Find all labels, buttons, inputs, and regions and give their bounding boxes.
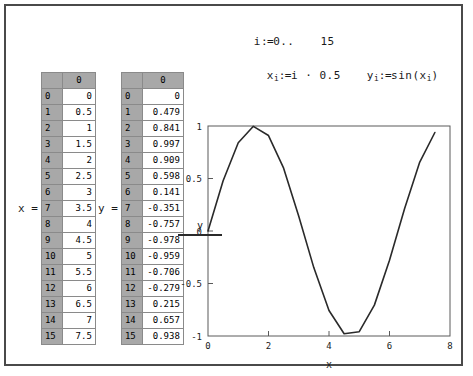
matrix-row: 42 — [41, 153, 95, 169]
x-tick-label: 0 — [205, 341, 210, 351]
matrix-row-index: 6 — [121, 185, 142, 201]
matrix-row-index: 7 — [41, 201, 62, 217]
matrix-value-cell[interactable]: 7.5 — [62, 329, 95, 345]
matrix-row-index: 11 — [121, 265, 142, 281]
matrix-x-table[interactable]: 00010.52131.54252.56373.58494.5105115.51… — [41, 72, 96, 345]
matrix-row: 31.5 — [41, 137, 95, 153]
matrix-corner-cell — [41, 73, 62, 89]
matrix-value-cell[interactable]: 2 — [62, 153, 95, 169]
matrix-value-cell[interactable]: 5.5 — [62, 265, 95, 281]
plot-region[interactable]: y 02468 -1-0.500.51 x — [166, 118, 456, 368]
worksheet-page: i:=0..15 xi:=i · 0.5yi:=sin(xi) x = 0001… — [0, 0, 473, 376]
matrix-x-label: x = — [18, 202, 38, 215]
plot-frame — [208, 126, 450, 336]
matrix-column-header: 0 — [142, 73, 183, 89]
matrix-row-index: 13 — [41, 297, 62, 313]
matrix-header-row: 0 — [121, 73, 183, 89]
matrix-row: 63 — [41, 185, 95, 201]
matrix-row: 84 — [41, 217, 95, 233]
matrix-row-index: 14 — [121, 313, 142, 329]
matrix-row-index: 9 — [41, 233, 62, 249]
matrix-row-index: 12 — [121, 281, 142, 297]
matrix-value-cell[interactable]: 1.5 — [62, 137, 95, 153]
matrix-corner-cell — [121, 73, 142, 89]
matrix-row-index: 1 — [121, 105, 142, 121]
matrix-value-cell[interactable]: 3 — [62, 185, 95, 201]
matrix-row-index: 15 — [121, 329, 142, 345]
matrix-value-cell[interactable]: 4.5 — [62, 233, 95, 249]
matrix-row: 136.5 — [41, 297, 95, 313]
x-tick-label: 4 — [326, 341, 331, 351]
range-end: 15 — [321, 35, 335, 48]
matrix-row: 126 — [41, 281, 95, 297]
x-tick-label: 8 — [447, 341, 452, 351]
formula-y-rhs-suffix: ) — [431, 69, 438, 82]
x-tick-label: 6 — [387, 341, 392, 351]
matrix-row-index: 12 — [41, 281, 62, 297]
matrix-row-index: 5 — [121, 169, 142, 185]
range-variable: i — [254, 35, 261, 48]
matrix-row: 00 — [41, 89, 95, 105]
y-tick-label: 0.5 — [186, 174, 202, 184]
x-axis-title: x — [326, 359, 332, 368]
matrix-row-index: 6 — [41, 185, 62, 201]
formula-y-rhs-prefix: sin(x — [391, 69, 427, 82]
matrix-row-index: 5 — [41, 169, 62, 185]
range-ellipsis: .. — [280, 35, 294, 48]
matrix-row-index: 10 — [41, 249, 62, 265]
matrix-row-index: 4 — [121, 153, 142, 169]
formula-y-lhs: y — [367, 69, 374, 82]
matrix-row: 115.5 — [41, 265, 95, 281]
matrix-value-cell[interactable]: 2.5 — [62, 169, 95, 185]
matrix-value-cell[interactable]: 1 — [62, 121, 95, 137]
matrix-row-index: 13 — [121, 297, 142, 313]
series-line-y — [208, 126, 435, 333]
matrix-value-cell[interactable]: 7 — [62, 313, 95, 329]
plot-legend: y — [176, 220, 224, 236]
y-tick-label: -1 — [191, 332, 202, 342]
matrix-row: 10.5 — [41, 105, 95, 121]
matrix-row: 73.5 — [41, 201, 95, 217]
matrix-row-index: 15 — [41, 329, 62, 345]
matrix-value-cell[interactable]: 4 — [62, 217, 95, 233]
matrix-row: 21 — [41, 121, 95, 137]
formula-x-assign-operator: := — [279, 69, 291, 82]
matrix-row: 94.5 — [41, 233, 95, 249]
matrix-value-cell[interactable]: 0 — [62, 89, 95, 105]
matrix-value-cell[interactable]: 6 — [62, 281, 95, 297]
matrix-value-cell[interactable]: 0 — [142, 89, 183, 105]
matrix-row-index: 3 — [121, 137, 142, 153]
sine-plot[interactable]: 02468 -1-0.500.51 x — [166, 118, 456, 368]
y-tick-label: 1 — [197, 122, 202, 132]
matrix-row-index: 3 — [41, 137, 62, 153]
matrix-value-cell[interactable]: 0.5 — [62, 105, 95, 121]
y-tick-label: -0.5 — [180, 279, 202, 289]
matrix-row: 52.5 — [41, 169, 95, 185]
x-axis-ticks: 02468 — [205, 331, 452, 351]
matrix-value-cell[interactable]: 3.5 — [62, 201, 95, 217]
worksheet-sheet: i:=0..15 xi:=i · 0.5yi:=sin(xi) x = 0001… — [4, 4, 463, 366]
matrix-row-index: 4 — [41, 153, 62, 169]
plot-series-group — [208, 126, 435, 333]
formula-x-lhs: x — [267, 69, 274, 82]
matrix-row-index: 7 — [121, 201, 142, 217]
matrix-header-row: 0 — [41, 73, 95, 89]
matrix-x-block: x = 00010.52131.54252.56373.58494.510511… — [18, 72, 96, 345]
formula-definitions: xi:=i · 0.5yi:=sin(xi) — [224, 56, 439, 96]
matrix-row-index: 9 — [121, 233, 142, 249]
matrix-column-header: 0 — [62, 73, 95, 89]
matrix-row: 105 — [41, 249, 95, 265]
matrix-row-index: 0 — [41, 89, 62, 105]
matrix-x-body: 00010.52131.54252.56373.58494.5105115.51… — [41, 73, 95, 345]
range-assign-operator: := — [261, 35, 273, 48]
matrix-row-index: 1 — [41, 105, 62, 121]
x-tick-label: 2 — [266, 341, 271, 351]
matrix-y-label: y = — [98, 202, 118, 215]
matrix-row-index: 2 — [41, 121, 62, 137]
matrix-row-index: 11 — [41, 265, 62, 281]
matrix-value-cell[interactable]: 6.5 — [62, 297, 95, 313]
matrix-row-index: 8 — [41, 217, 62, 233]
matrix-row: 157.5 — [41, 329, 95, 345]
matrix-row-index: 8 — [121, 217, 142, 233]
matrix-value-cell[interactable]: 5 — [62, 249, 95, 265]
